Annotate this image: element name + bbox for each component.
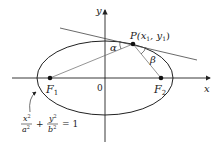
svg-text:y2: y2 [48,113,57,123]
svg-text:+: + [36,119,44,129]
focus-f2-label: F2 [153,83,166,97]
equation-pointer-arrow [30,92,36,112]
svg-text:b2: b2 [48,124,56,134]
point-p-label: P(x1, y1) [129,30,170,42]
beta-label: β [149,54,156,65]
point-p-dot [131,42,136,47]
svg-text:= 1: = 1 [62,119,78,129]
focus-f2-dot [159,76,164,81]
svg-text:x2: x2 [23,113,31,123]
focus-f1-dot [48,76,53,81]
tangent-line [60,28,197,60]
focus-f1-label: F1 [45,83,58,97]
alpha-label: α [110,42,117,53]
svg-text:a2: a2 [22,124,30,134]
y-axis-label: y [95,5,102,16]
ellipse-equation: x2 a2 + y2 b2 = 1 [21,113,78,134]
origin-label: 0 [97,83,103,93]
x-axis-label: x [204,83,210,94]
ellipse-diagram: y x 0 F1 F2 P(x1, y1) α β x2 a2 + y2 b2 … [0,0,222,150]
